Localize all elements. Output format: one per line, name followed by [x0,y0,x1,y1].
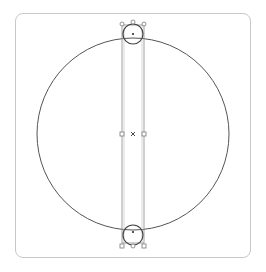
selection-handle-icon [120,22,124,26]
selection-handle-icon [142,22,146,26]
selection-handle-icon [131,244,135,248]
selection-handle-icon[interactable] [120,132,124,136]
center-cross-icon[interactable] [131,132,135,136]
selection-handle-icon [131,20,135,24]
selection-handle-icon [142,244,146,248]
drawing-canvas[interactable] [0,0,266,272]
selection-handle-icon [120,244,124,248]
selection-handle-icon[interactable] [142,132,146,136]
